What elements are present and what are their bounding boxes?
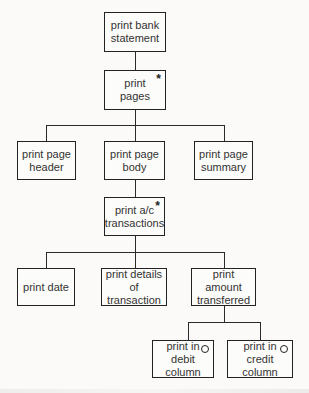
iteration-marker-icon: * [155,201,160,212]
node-print-page-header: print page header [17,141,76,180]
node-print-amount-transferred: print amount transferred [191,268,256,306]
selection-marker-icon: o [201,345,209,353]
selection-marker-icon: o [280,345,288,353]
connector-body-transactions [135,180,136,197]
node-label: print bank statement [111,19,159,45]
node-print-pages: print pages * [104,70,166,110]
node-print-page-summary: print page summary [194,141,253,180]
connector-to-amount [224,252,225,268]
iteration-marker-icon: * [156,74,161,85]
connector-transactions-trunk [135,236,136,252]
node-print-bank-statement: print bank statement [104,12,166,52]
connector-root-pages [135,52,136,70]
node-print-page-body: print page body [104,141,165,180]
connector-to-details [135,252,136,268]
scan-artifact [0,389,309,393]
node-label: print page body [110,148,159,174]
node-print-date: print date [17,268,75,306]
connector-amount-bar [188,322,261,323]
connector-to-date [46,252,47,268]
node-print-ac-transactions: print a/c transactions * [104,197,165,236]
node-label: print pages [120,77,150,103]
connector-pages-trunk [135,110,136,125]
node-label: print details of transaction [104,268,164,307]
connector-amount-trunk [224,306,225,322]
node-print-details-of-transaction: print details of transaction [101,268,167,306]
node-label: print date [23,281,69,294]
node-print-in-debit-column: print in debit column o [152,340,214,378]
node-print-in-credit-column: print in credit column o [227,340,293,378]
structure-diagram: print bank statement print pages * print… [0,0,309,393]
node-label: print amount transferred [194,268,253,307]
connector-to-header [46,125,47,141]
connector-to-summary [224,125,225,141]
node-label: print page header [22,148,71,174]
connector-to-debit [188,322,189,340]
node-label: print page summary [199,148,248,174]
connector-to-body [135,125,136,141]
connector-to-credit [260,322,261,340]
